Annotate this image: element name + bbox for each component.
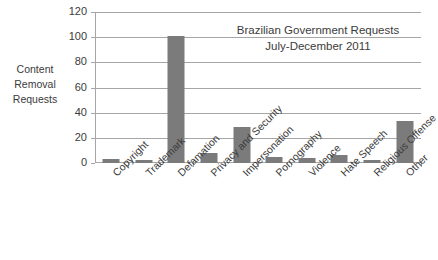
x-category-label: Other [403,151,430,178]
chart-title-line-2: July-December 2011 [218,38,418,54]
chart-title-line-1: Brazilian Government Requests [218,22,418,38]
chart-title: Brazilian Government Requests July-Decem… [218,22,418,54]
x-category-label: Copyright [110,138,150,178]
